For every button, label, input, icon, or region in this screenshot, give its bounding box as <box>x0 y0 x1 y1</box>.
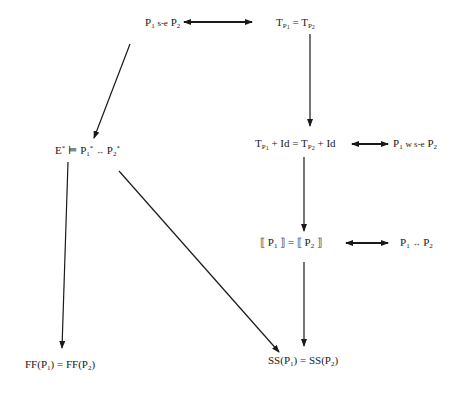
symbol-t: T <box>276 16 283 28</box>
subscript: 1 <box>266 145 269 151</box>
superscript-star: * <box>62 144 66 152</box>
superscript-star: * <box>90 144 94 152</box>
symbol-e: E <box>55 144 62 156</box>
paren: ) <box>91 358 95 370</box>
equals-sign: = <box>292 16 298 28</box>
subscript: 1 <box>399 143 403 151</box>
paren: ) <box>294 354 298 366</box>
subscript: 2 <box>311 242 315 250</box>
subscript: 2 <box>429 242 433 250</box>
relation-wse: w s-e <box>405 139 424 149</box>
diagram-edges <box>0 0 464 404</box>
superscript-star: * <box>116 144 120 152</box>
equals-sign: = <box>300 354 306 366</box>
edge-ext-ss <box>119 171 279 352</box>
iff-symbol: ↔ <box>412 239 420 248</box>
subscript: 1 <box>151 22 155 30</box>
subscript: P1 <box>283 22 290 30</box>
ff-label: FF <box>66 358 78 370</box>
node-ext-entails: E* ⊨ P1* ↔ P2* <box>55 144 120 158</box>
equals-sign: = <box>57 358 63 370</box>
node-trans-equal: TP1 = TP2 <box>276 16 315 28</box>
edge-strong-equiv-ext-entails <box>94 44 130 138</box>
ff-label: FF <box>25 358 37 370</box>
subscript: 1 <box>287 24 290 30</box>
equals-sign: = <box>288 236 294 248</box>
plus-id: + Id <box>317 137 335 149</box>
equals-sign: = <box>292 137 298 149</box>
right-bracket: ⟧ <box>317 236 322 248</box>
plus-id: + Id <box>271 137 289 149</box>
subscript: P2 <box>308 143 315 151</box>
subscript: 2 <box>177 22 181 30</box>
symbol-t: T <box>255 137 262 149</box>
subscript: 1 <box>274 242 278 250</box>
left-bracket: ⟦ <box>297 236 302 248</box>
node-trans-id-equal: TP1 + Id = TP2 + Id <box>255 137 336 149</box>
iff-symbol: ↔ <box>96 147 104 156</box>
subscript: 2 <box>434 143 438 151</box>
subscript: P1 <box>262 143 269 151</box>
left-bracket: ⟦ <box>260 236 265 248</box>
node-ss-equal: SS(P1) = SS(P2) <box>268 354 338 366</box>
node-ff-equal: FF(P1) = FF(P2) <box>25 358 95 370</box>
ss-label: SS <box>309 354 321 366</box>
right-bracket: ⟧ <box>280 236 285 248</box>
node-strong-equiv: P1 s-e P2 <box>145 16 180 29</box>
relation-se: s-e <box>157 18 168 28</box>
subscript: P2 <box>308 22 315 30</box>
node-logical-equiv: P1 ↔ P2 <box>400 236 433 250</box>
subscript: 2 <box>312 24 315 30</box>
node-denot-equal: ⟦ P1 ⟧ = ⟦ P2 ⟧ <box>260 236 322 248</box>
symbol-t: T <box>301 137 308 149</box>
subscript: 1 <box>406 242 410 250</box>
edge-ext-ff <box>62 162 68 348</box>
paren: ) <box>334 354 338 366</box>
subscript: 2 <box>312 145 315 151</box>
paren: ) <box>51 358 55 370</box>
ss-label: SS <box>268 354 280 366</box>
node-weak-strong-equiv: P1 w s-e P2 <box>393 137 437 150</box>
models-symbol: ⊨ <box>68 144 77 156</box>
symbol-t: T <box>301 16 308 28</box>
